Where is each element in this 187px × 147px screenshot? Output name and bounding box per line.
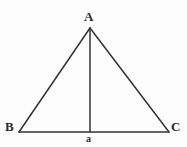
geometry-figure: A B C a bbox=[0, 0, 187, 147]
point-label-a-lowercase: a bbox=[86, 134, 91, 144]
triangle-side-ab bbox=[19, 28, 90, 132]
triangle-side-ac bbox=[90, 28, 169, 132]
vertex-label-a: A bbox=[84, 10, 93, 23]
vertex-label-c: C bbox=[171, 120, 180, 133]
triangle-drawing bbox=[0, 0, 187, 147]
vertex-label-b: B bbox=[5, 120, 14, 133]
